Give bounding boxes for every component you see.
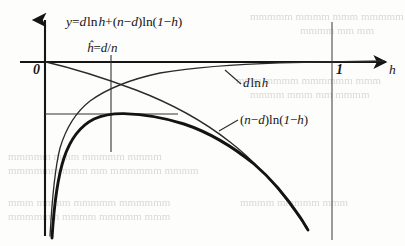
- dlnh-ln: ln: [251, 75, 261, 90]
- x-tick-label-one: 1: [336, 63, 343, 77]
- curve-log-likelihood-sum: [52, 114, 308, 238]
- leader-line-n-minus-d: [219, 120, 238, 131]
- origin-label: 0: [33, 63, 40, 77]
- curve-label-d-ln-h: d ln h: [243, 76, 268, 89]
- dlnh-h: h: [262, 75, 269, 90]
- x-axis-label: h: [389, 63, 396, 77]
- figure-container: mmmmm mmmm mmm mmmmm mmmm mm mm mmm mmmm…: [0, 0, 405, 246]
- title-close-paren-2: ): [178, 14, 182, 29]
- ndln-close-paren-2: ): [304, 112, 308, 127]
- leader-line-d-ln-h: [225, 70, 241, 84]
- title-n: n: [117, 14, 124, 29]
- figure-title-expression: y=d ln h+(n−d)ln(1−h): [66, 15, 182, 29]
- curve-d-ln-h: [50, 61, 384, 236]
- title-h-2: h: [171, 14, 178, 29]
- title-d-2: d: [131, 14, 138, 29]
- title-ln-2: ln: [142, 14, 152, 29]
- title-one: 1: [157, 14, 164, 29]
- mle-label: ĥ=d/n: [87, 41, 117, 54]
- mle-equals: =: [94, 40, 101, 55]
- mle-n: n: [111, 40, 118, 55]
- ndln-ln: ln: [269, 112, 279, 127]
- figure-plot-svg: [0, 0, 405, 246]
- title-plus: +: [105, 14, 113, 29]
- title-ln-1: ln: [87, 14, 97, 29]
- curve-label-n-minus-d-ln-one-minus-h: (n−d)ln(1−h): [240, 113, 308, 126]
